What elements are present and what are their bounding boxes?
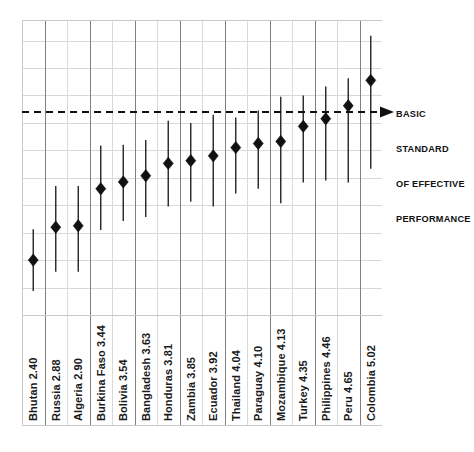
threshold-annotation: BASIC STANDARD OF EFFECTIVE PERFORMANCE [396, 86, 471, 248]
category-label-11: Mozambique 4.13 [275, 328, 287, 421]
data-point-group [96, 146, 106, 230]
data-point-group [186, 123, 196, 202]
category-label-14: Peru 4.65 [342, 371, 354, 421]
data-marker-diamond [208, 150, 218, 162]
data-marker-diamond [163, 157, 173, 169]
category-label-12: Turkey 4.35 [297, 360, 309, 421]
data-point-group [208, 115, 218, 207]
annotation-line-3: OF EFFECTIVE [396, 179, 471, 191]
annotation-line-4: PERFORMANCE [396, 214, 471, 226]
data-point-group [298, 95, 308, 182]
data-point-group [231, 117, 241, 193]
vertical-gridlines [46, 20, 361, 425]
data-marker-diamond [253, 137, 263, 149]
category-label-13: Philippines 4.46 [320, 336, 332, 421]
category-label-15: Colombia 5.02 [365, 345, 377, 421]
data-point-group [343, 78, 353, 182]
data-marker-diamond [298, 120, 308, 132]
data-point-group [51, 186, 61, 272]
data-point-group [118, 145, 128, 221]
category-label-10: Paraguay 4.10 [252, 346, 264, 421]
category-label-0: Bhutan 2.40 [27, 358, 39, 421]
data-marker-diamond [51, 221, 61, 233]
data-point-group [73, 186, 83, 272]
data-point-group [321, 87, 331, 181]
annotation-line-2: STANDARD [396, 144, 471, 156]
annotation-line-1: BASIC [396, 109, 471, 121]
data-point-group [28, 229, 38, 291]
category-label-1: Russia 2.88 [50, 359, 62, 421]
data-marker-diamond [73, 220, 83, 232]
category-label-7: Zambia 3.85 [185, 357, 197, 421]
data-marker-diamond [276, 135, 286, 147]
data-marker-diamond [96, 183, 106, 195]
category-label-4: Bolivia 3.54 [117, 358, 129, 421]
data-marker-diamond [231, 141, 241, 153]
data-point-group [253, 111, 263, 189]
category-label-6: Honduras 3.81 [162, 344, 174, 421]
category-label-2: Algeria 2.90 [72, 358, 84, 421]
chart-container: Bhutan 2.40Russia 2.88Algeria 2.90Burkin… [0, 0, 474, 452]
category-label-3: Burkina Faso 3.44 [95, 324, 107, 421]
category-label-5: Bangladesh 3.63 [140, 333, 152, 421]
threshold-dashed-line [22, 107, 394, 118]
category-label-9: Thailand 4.04 [230, 349, 242, 421]
data-point-group [366, 36, 376, 169]
category-label-8: Ecuador 3.92 [207, 351, 219, 421]
data-marker-diamond [28, 254, 38, 266]
data-marker-diamond [343, 100, 353, 112]
data-marker-diamond [141, 170, 151, 182]
data-marker-diamond [186, 154, 196, 166]
data-marker-diamond [366, 74, 376, 86]
data-marker-diamond [118, 176, 128, 188]
data-point-group [163, 121, 173, 207]
